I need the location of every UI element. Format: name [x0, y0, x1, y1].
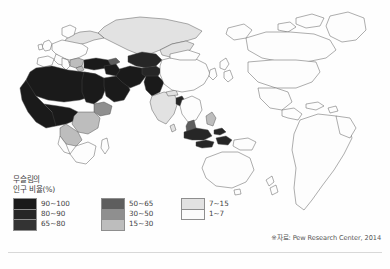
legend-swatch-90-100 — [14, 199, 36, 209]
legend-label-15-30: 15~30 — [129, 219, 153, 229]
legend-swatch-30-50 — [102, 209, 124, 220]
legend-label-stack-mid: 50~65 30~50 15~30 — [129, 198, 153, 229]
legend-swatch-15-30 — [102, 219, 124, 230]
legend-label-80-90: 80~90 — [41, 209, 70, 219]
eastern-hemisphere-map — [20, 17, 278, 195]
legend-column-mid: 50~65 30~50 15~30 — [101, 198, 181, 231]
legend-swatch-65-80 — [14, 219, 36, 230]
map-figure: .c { stroke:#4a4a4a; stroke-width:0.45; … — [0, 0, 390, 269]
legend-swatch-1-7 — [182, 209, 204, 220]
legend-swatch-stack-mid — [101, 198, 125, 231]
legend-columns: 90~100 80~90 65~80 50~65 30~50 15~30 — [13, 198, 283, 231]
legend-label-stack-low: 7~15 1~7 — [209, 198, 229, 219]
legend-label-stack-high: 90~100 80~90 65~80 — [41, 198, 70, 229]
legend-label-1-7: 1~7 — [209, 209, 229, 219]
legend-swatch-stack-low — [181, 198, 205, 220]
legend-label-90-100: 90~100 — [41, 199, 70, 209]
map-legend: 무슬림의 인구 비율(%) 90~100 80~90 65~80 — [13, 175, 283, 231]
legend-swatch-80-90 — [14, 209, 36, 220]
bottom-divider — [8, 252, 382, 253]
legend-swatch-stack-high — [13, 198, 37, 231]
legend-swatch-7-15 — [182, 199, 204, 209]
legend-swatch-50-65 — [102, 199, 124, 209]
legend-title: 무슬림의 인구 비율(%) — [13, 175, 283, 194]
source-attribution: ※자료: Pew Research Center, 2014 — [271, 232, 381, 242]
legend-label-7-15: 7~15 — [209, 199, 229, 209]
legend-label-65-80: 65~80 — [41, 219, 70, 229]
legend-column-high: 90~100 80~90 65~80 — [13, 198, 101, 231]
legend-label-50-65: 50~65 — [129, 199, 153, 209]
legend-label-30-50: 30~50 — [129, 209, 153, 219]
legend-column-low: 7~15 1~7 — [181, 198, 261, 220]
